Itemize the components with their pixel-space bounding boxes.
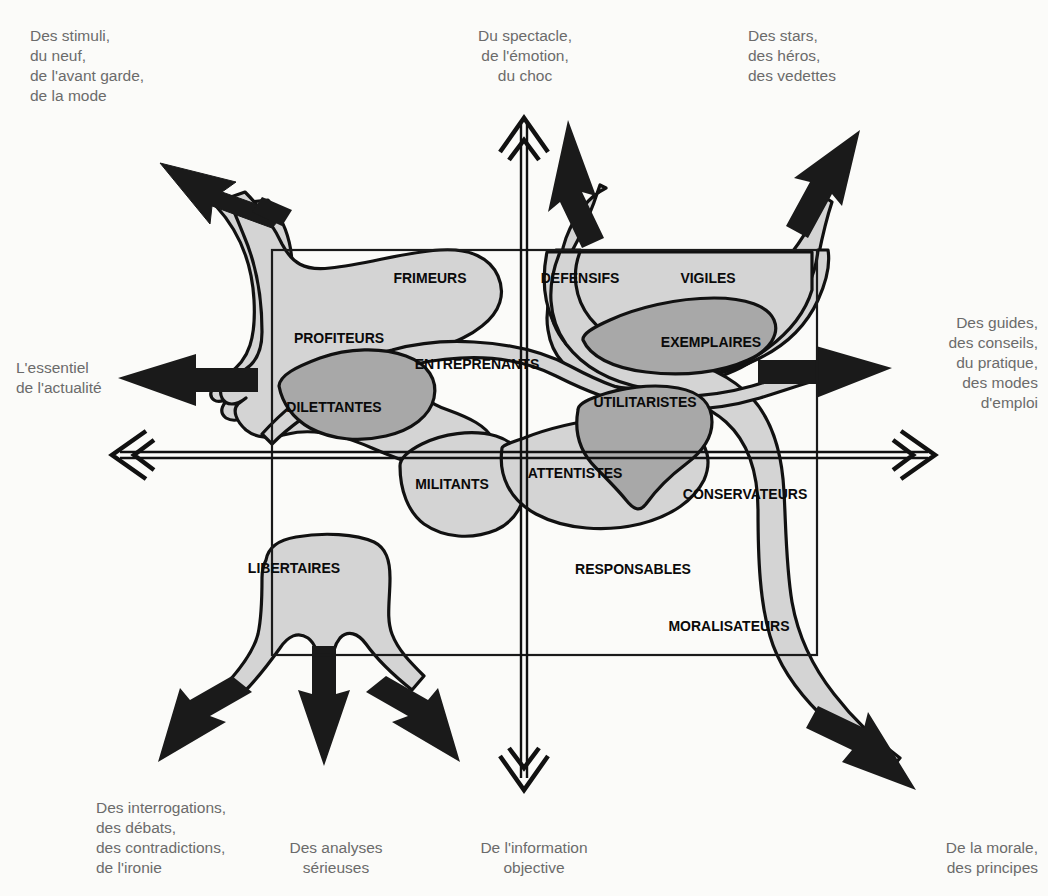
axis-arrowhead-east-inner <box>893 440 913 470</box>
axis-label-left: L'essentiel de l'actualité <box>16 358 176 398</box>
segment-label-militants: MILITANTS <box>415 476 489 492</box>
segment-label-frimeurs: FRIMEURS <box>393 270 466 286</box>
segment-label-libertaires: LIBERTAIRES <box>248 560 340 576</box>
arrow-southwest <box>158 676 252 762</box>
segment-label-utilitaristes: UTILITARISTES <box>593 394 696 410</box>
segment-label-vigiles: VIGILES <box>680 270 735 286</box>
axis-arrowhead-north-inner <box>509 140 539 160</box>
segment-label-exemplaires: EXEMPLAIRES <box>661 334 761 350</box>
axis-arrowhead-north <box>500 118 548 152</box>
arrow-south <box>298 646 350 766</box>
axis-arrowhead-west-inner <box>134 440 154 470</box>
segment-label-dilettantes: DILETTANTES <box>286 399 381 415</box>
segment-label-attentistes: ATTENTISTES <box>528 465 623 481</box>
segment-label-conservateurs: CONSERVATEURS <box>683 486 807 502</box>
diagram-svg: FRIMEURSPROFITEURSDILETTANTESENTREPRENAN… <box>0 0 1048 896</box>
diagram-canvas: FRIMEURSPROFITEURSDILETTANTESENTREPRENAN… <box>0 0 1048 896</box>
axis-arrowhead-east <box>901 431 935 479</box>
segment-label-defensifs: DEFENSIFS <box>541 270 620 286</box>
axis-arrowhead-south-inner <box>509 748 539 768</box>
arrow-north <box>548 120 604 248</box>
segment-label-moralisateurs: MORALISATEURS <box>668 618 789 634</box>
corner-label-bottom-right: De la morale, des principes <box>858 838 1038 878</box>
corner-label-top-left: Des stimuli, du neuf, de l'avant garde, … <box>30 26 144 106</box>
segment-label-entreprenants: ENTREPRENANTS <box>415 356 539 372</box>
axis-label-bottom: De l'information objective <box>434 838 634 878</box>
axis-label-right: Des guides, des conseils, du pratique, d… <box>858 313 1038 413</box>
corner-label-bottom-left: Des interrogations, des débats, des cont… <box>96 798 226 878</box>
segment-label-responsables: RESPONSABLES <box>575 561 691 577</box>
axis-arrowhead-west <box>112 431 146 479</box>
arrow-southeast-long <box>806 706 916 790</box>
segment-label-profiteurs: PROFITEURS <box>294 330 384 346</box>
corner-label-bottom-center: Des analyses sérieuses <box>236 838 436 878</box>
axis-arrowhead-south <box>500 756 548 790</box>
corner-label-top-right: Des stars, des héros, des vedettes <box>748 26 1028 86</box>
axis-label-top: Du spectacle, de l'émotion, du choc <box>400 26 650 86</box>
